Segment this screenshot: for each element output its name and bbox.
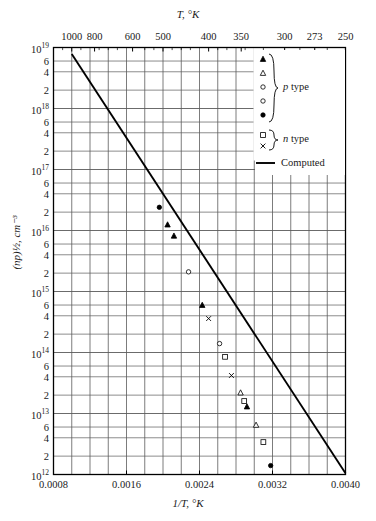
- y-minor-label: 6: [0, 361, 49, 372]
- top-tick-label: 500: [155, 31, 171, 42]
- x-tick-label: 0.0032: [258, 479, 287, 490]
- y-minor-label: 4: [0, 371, 49, 382]
- y-decade-label: 1013: [0, 407, 49, 421]
- y-minor-label: 4: [0, 188, 49, 199]
- y-minor-label: 4: [0, 127, 49, 138]
- y-decade-label: 1015: [0, 285, 49, 299]
- y-minor-label: 4: [0, 249, 49, 260]
- top-tick-label: 600: [125, 31, 141, 42]
- top-tick-label: 300: [277, 31, 293, 42]
- figure-root: T, °K 1/T, °K (np)½, cm⁻³ 10008006005004…: [0, 0, 376, 521]
- series-filled-triangle: [165, 222, 250, 409]
- y-decade-label: 1019: [0, 41, 49, 55]
- top-tick-label: 250: [338, 31, 354, 42]
- y-decade-base: 10: [31, 43, 42, 54]
- legend-brace: [269, 130, 278, 150]
- y-decade-base: 10: [31, 104, 42, 115]
- y-decade-exp: 16: [42, 224, 50, 233]
- x-tick-label: 0.0040: [331, 479, 360, 490]
- y-decade-exp: 15: [42, 285, 50, 294]
- y-decade-exp: 19: [42, 41, 50, 50]
- top-tick-label: 400: [201, 31, 217, 42]
- y-decade-base: 10: [31, 348, 42, 359]
- y-minor-label: 4: [0, 432, 49, 443]
- y-decade-exp: 13: [42, 407, 50, 416]
- y-minor-label: 4: [0, 310, 49, 321]
- x-tick-label: 0.0024: [185, 479, 214, 490]
- legend-computed-text: Computed: [281, 157, 325, 168]
- y-decade-exp: 18: [42, 102, 50, 111]
- y-minor-label: 6: [0, 300, 49, 311]
- top-tick-label: 800: [87, 31, 103, 42]
- y-decade-exp: 14: [42, 346, 50, 355]
- y-decade-label: 1014: [0, 346, 49, 360]
- legend-brace: [269, 54, 278, 122]
- y-minor-label: 6: [0, 239, 49, 250]
- y-decade-label: 1016: [0, 224, 49, 238]
- legend-label-n-type: n type: [283, 133, 309, 144]
- y-minor-label: 2: [0, 451, 49, 462]
- series-open-square: [223, 354, 266, 444]
- top-tick-label: 350: [233, 31, 249, 42]
- series-cross: [206, 316, 234, 378]
- y-decade-exp: 17: [42, 163, 50, 172]
- y-minor-label: 6: [0, 56, 49, 67]
- y-minor-label: 2: [0, 146, 49, 157]
- y-decade-base: 10: [31, 165, 42, 176]
- y-decade-label: 1017: [0, 163, 49, 177]
- y-minor-label: 2: [0, 85, 49, 96]
- legend-label-p-type: p type: [283, 81, 309, 92]
- y-minor-label: 2: [0, 207, 49, 218]
- y-decade-base: 10: [31, 409, 42, 420]
- legend: p typen typeComputed: [255, 50, 345, 175]
- y-minor-label: 6: [0, 178, 49, 189]
- y-decade-base: 10: [31, 226, 42, 237]
- top-tick-label: 1000: [61, 31, 82, 42]
- y-decade-base: 10: [31, 287, 42, 298]
- top-tick-label: 273: [307, 31, 323, 42]
- legend-label-computed: Computed: [281, 157, 325, 168]
- y-decade-label: 1012: [0, 468, 49, 482]
- y-minor-label: 4: [0, 66, 49, 77]
- y-decade-exp: 12: [42, 468, 50, 477]
- legend-n-rest: type: [288, 133, 309, 144]
- x-tick-label: 0.0016: [112, 479, 141, 490]
- y-minor-label: 2: [0, 268, 49, 279]
- y-minor-label: 6: [0, 422, 49, 433]
- y-minor-label: 6: [0, 117, 49, 128]
- y-minor-label: 2: [0, 390, 49, 401]
- y-minor-label: 2: [0, 329, 49, 340]
- y-decade-label: 1018: [0, 102, 49, 116]
- y-decade-base: 10: [31, 470, 42, 481]
- legend-p-rest: type: [288, 81, 309, 92]
